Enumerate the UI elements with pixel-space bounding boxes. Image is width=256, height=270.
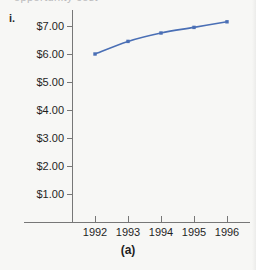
data-point: 1996: $7.15 [225,20,228,23]
data-series-layer: 1992: $6.001993: $6.451994: $6.751995: $… [0,0,256,270]
figure-container: opportunity cost i. $1.00$2.00$3.00$4.00… [0,0,256,270]
data-point: 1993: $6.45 [126,40,129,43]
plot-area: $1.00$2.00$3.00$4.00$5.00$6.00$7.00 1992… [0,0,256,270]
scan-edge-artifact [252,0,256,270]
figure-caption: (a) [0,243,256,257]
data-point: 1994: $6.75 [159,31,162,34]
data-point: 1992: $6.00 [93,52,96,55]
series-line [95,22,227,54]
data-point: 1995: $6.95 [192,26,195,29]
